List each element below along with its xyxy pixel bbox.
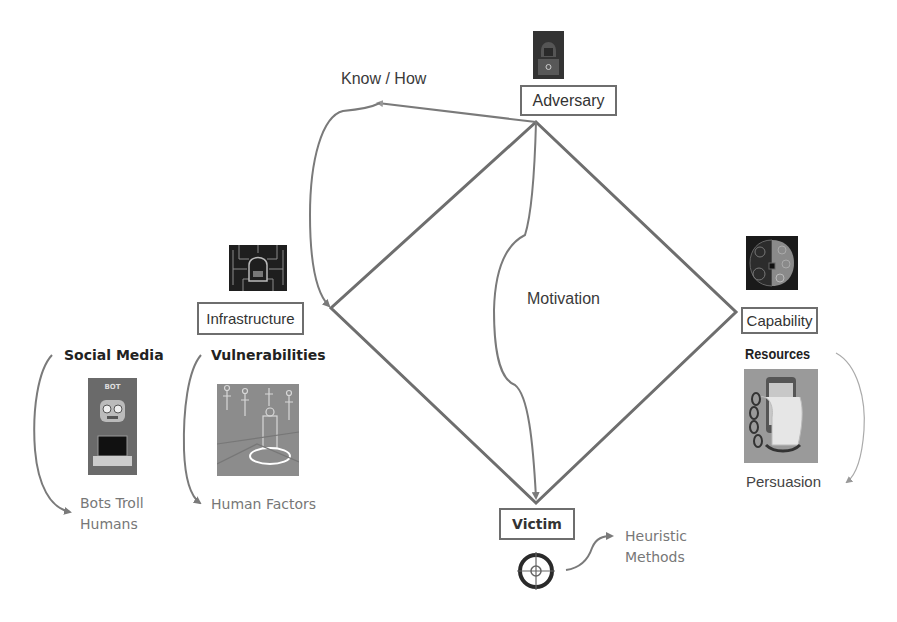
- victim-label: Victim: [512, 516, 562, 532]
- brain-circuit-icon: [746, 236, 798, 290]
- capability-node[interactable]: Capability: [741, 307, 818, 334]
- persuasion-label: Persuasion: [746, 473, 821, 490]
- crosshair-target-icon: [515, 550, 557, 592]
- bot-caption: BOT: [104, 383, 120, 391]
- human-factors-label: Human Factors: [211, 496, 316, 512]
- victim-node[interactable]: Victim: [499, 508, 575, 540]
- infrastructure-node[interactable]: Infrastructure: [197, 302, 304, 335]
- circuit-lock-icon: [229, 245, 287, 291]
- infrastructure-label: Infrastructure: [206, 310, 294, 327]
- adversary-node[interactable]: Adversary: [520, 85, 617, 116]
- heuristic-methods-label: Heuristic Methods: [625, 526, 687, 568]
- know-how-arrow: [378, 103, 536, 122]
- capability-label: Capability: [747, 312, 813, 329]
- resources-arc: [836, 353, 864, 482]
- social-media-arc: [34, 355, 70, 512]
- bot-laptop-icon: BOT: [88, 378, 137, 475]
- vulnerabilities-heading: Vulnerabilities: [211, 347, 326, 363]
- heuristic-line1: Heuristic: [625, 526, 687, 547]
- know-how-label: Know / How: [341, 70, 426, 88]
- adversary-victim-arrow: [494, 122, 536, 498]
- know-how-infrastructure-arrow: [310, 103, 380, 306]
- chained-phone-icon: [744, 369, 818, 463]
- victim-heuristic-arrow: [566, 536, 612, 570]
- hooded-hacker-icon: [533, 31, 564, 79]
- humans-line: Humans: [80, 514, 144, 535]
- motivation-label: Motivation: [527, 290, 600, 308]
- resources-heading: Resources: [745, 345, 810, 362]
- adversary-label: Adversary: [532, 92, 604, 110]
- heuristic-line2: Methods: [625, 547, 687, 568]
- bots-troll-humans-label: Bots Troll Humans: [80, 493, 144, 535]
- networked-people-icon: [217, 384, 299, 476]
- bots-troll-line: Bots Troll: [80, 493, 144, 514]
- vulnerabilities-arc: [184, 355, 201, 503]
- social-media-heading: Social Media: [64, 347, 164, 363]
